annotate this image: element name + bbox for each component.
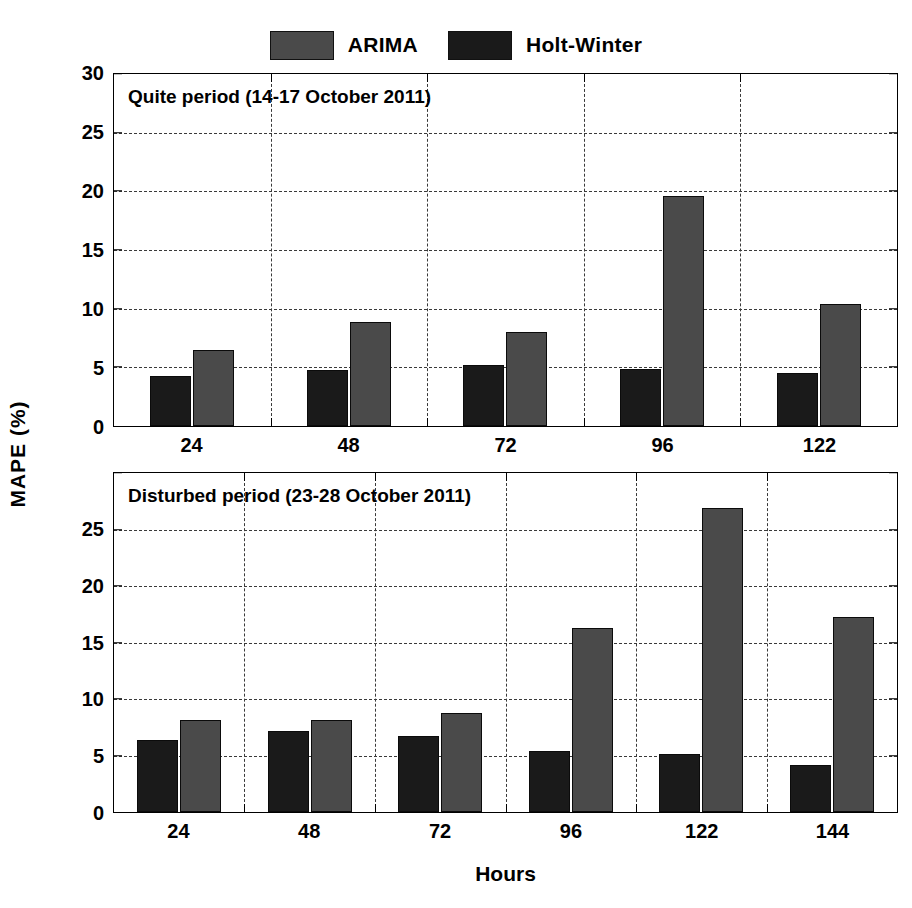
x-tick-mark bbox=[271, 418, 272, 426]
x-tick-label: 24 bbox=[113, 813, 244, 843]
x-tick-mark bbox=[506, 804, 507, 812]
bar-arima bbox=[702, 508, 743, 812]
bar-group bbox=[375, 473, 506, 812]
y-tick-label: 0 bbox=[93, 416, 104, 439]
y-tick-label: 20 bbox=[82, 574, 104, 597]
x-axis-ticks-bottom: 24487296122144 bbox=[113, 813, 898, 843]
y-tick-label: 20 bbox=[82, 180, 104, 203]
bar-arima bbox=[311, 720, 352, 812]
bar-group bbox=[427, 74, 584, 426]
x-tick-mark bbox=[584, 418, 585, 426]
bar-group bbox=[506, 473, 637, 812]
plot-area-top: Quite period (14-17 October 2011) bbox=[113, 73, 898, 427]
x-tick-mark bbox=[740, 418, 741, 426]
x-tick-mark bbox=[244, 473, 245, 481]
y-tick-label: 10 bbox=[82, 688, 104, 711]
x-tick-mark bbox=[767, 473, 768, 481]
bar-arima bbox=[350, 322, 391, 426]
legend-label-arima: ARIMA bbox=[348, 33, 418, 57]
x-tick-mark bbox=[375, 473, 376, 481]
bar-group bbox=[767, 473, 898, 812]
bar-group bbox=[271, 74, 428, 426]
bar-group bbox=[114, 473, 245, 812]
y-tick-label: 25 bbox=[82, 121, 104, 144]
bar-arima bbox=[506, 332, 547, 426]
y-tick-label: 5 bbox=[93, 745, 104, 768]
x-tick-mark bbox=[427, 74, 428, 82]
bar-holt-winter bbox=[307, 370, 348, 426]
bar-arima bbox=[663, 196, 704, 426]
x-tick-label: 96 bbox=[505, 813, 636, 843]
bar-arima bbox=[572, 628, 613, 812]
x-tick-mark bbox=[767, 804, 768, 812]
y-tick-label: 0 bbox=[93, 802, 104, 825]
bar-groups-top bbox=[114, 74, 897, 426]
bar-holt-winter bbox=[463, 365, 504, 426]
x-tick-mark bbox=[740, 74, 741, 82]
y-tick-label: 15 bbox=[82, 631, 104, 654]
y-tick-label: 25 bbox=[82, 517, 104, 540]
bar-group bbox=[114, 74, 271, 426]
panel-title-top: Quite period (14-17 October 2011) bbox=[128, 86, 431, 108]
x-tick-mark bbox=[244, 804, 245, 812]
x-tick-mark bbox=[271, 74, 272, 82]
bar-holt-winter bbox=[790, 765, 831, 812]
x-tick-label: 48 bbox=[244, 813, 375, 843]
bar-holt-winter bbox=[620, 369, 661, 426]
chart-panel-quite-period: Quite period (14-17 October 2011) 244872… bbox=[113, 73, 898, 427]
chart-panel-disturbed-period: Disturbed period (23-28 October 2011) 24… bbox=[113, 472, 898, 813]
x-axis-ticks-top: 24487296122 bbox=[113, 427, 898, 457]
bar-holt-winter bbox=[150, 376, 191, 426]
legend-swatch-holt-winter bbox=[448, 31, 512, 60]
x-tick-mark bbox=[427, 418, 428, 426]
bar-holt-winter bbox=[137, 740, 178, 812]
figure: ARIMA Holt-Winter MAPE (%) Quite period … bbox=[0, 0, 912, 908]
legend-entry-arima: ARIMA bbox=[270, 31, 418, 60]
y-tick-label: 15 bbox=[82, 239, 104, 262]
bar-groups-bottom bbox=[114, 473, 897, 812]
x-tick-label: 122 bbox=[636, 813, 767, 843]
x-tick-label: 72 bbox=[375, 813, 506, 843]
bar-holt-winter bbox=[268, 731, 309, 812]
x-tick-mark bbox=[375, 804, 376, 812]
x-axis-label: Hours bbox=[113, 862, 898, 886]
bar-group bbox=[245, 473, 376, 812]
plot-area-bottom: Disturbed period (23-28 October 2011) bbox=[113, 472, 898, 813]
x-tick-mark bbox=[584, 74, 585, 82]
x-tick-label: 48 bbox=[270, 427, 427, 457]
legend-swatch-arima bbox=[270, 31, 334, 60]
bar-arima bbox=[820, 304, 861, 426]
y-tick-label: 5 bbox=[93, 357, 104, 380]
legend-entry-holt-winter: Holt-Winter bbox=[448, 31, 642, 60]
bar-holt-winter bbox=[398, 736, 439, 812]
bar-group bbox=[740, 74, 897, 426]
x-tick-label: 72 bbox=[427, 427, 584, 457]
x-tick-label: 122 bbox=[741, 427, 898, 457]
bar-arima bbox=[833, 617, 874, 812]
y-axis-label: MAPE (%) bbox=[0, 0, 38, 908]
bar-arima bbox=[180, 720, 221, 812]
y-tick-label: 30 bbox=[82, 62, 104, 85]
bar-holt-winter bbox=[659, 754, 700, 812]
x-tick-mark bbox=[636, 473, 637, 481]
bar-group bbox=[584, 74, 741, 426]
chart-legend: ARIMA Holt-Winter bbox=[0, 22, 912, 68]
bar-holt-winter bbox=[529, 751, 570, 812]
bar-arima bbox=[441, 713, 482, 812]
panel-title-bottom: Disturbed period (23-28 October 2011) bbox=[128, 485, 471, 507]
bar-group bbox=[636, 473, 767, 812]
bar-arima bbox=[193, 350, 234, 426]
y-tick-label: 10 bbox=[82, 298, 104, 321]
bar-holt-winter bbox=[777, 373, 818, 426]
x-tick-label: 144 bbox=[767, 813, 898, 843]
legend-label-holt-winter: Holt-Winter bbox=[526, 33, 642, 57]
x-tick-mark bbox=[636, 804, 637, 812]
x-tick-label: 96 bbox=[584, 427, 741, 457]
y-axis-label-text: MAPE (%) bbox=[6, 400, 30, 507]
x-tick-label: 24 bbox=[113, 427, 270, 457]
x-tick-mark bbox=[506, 473, 507, 481]
